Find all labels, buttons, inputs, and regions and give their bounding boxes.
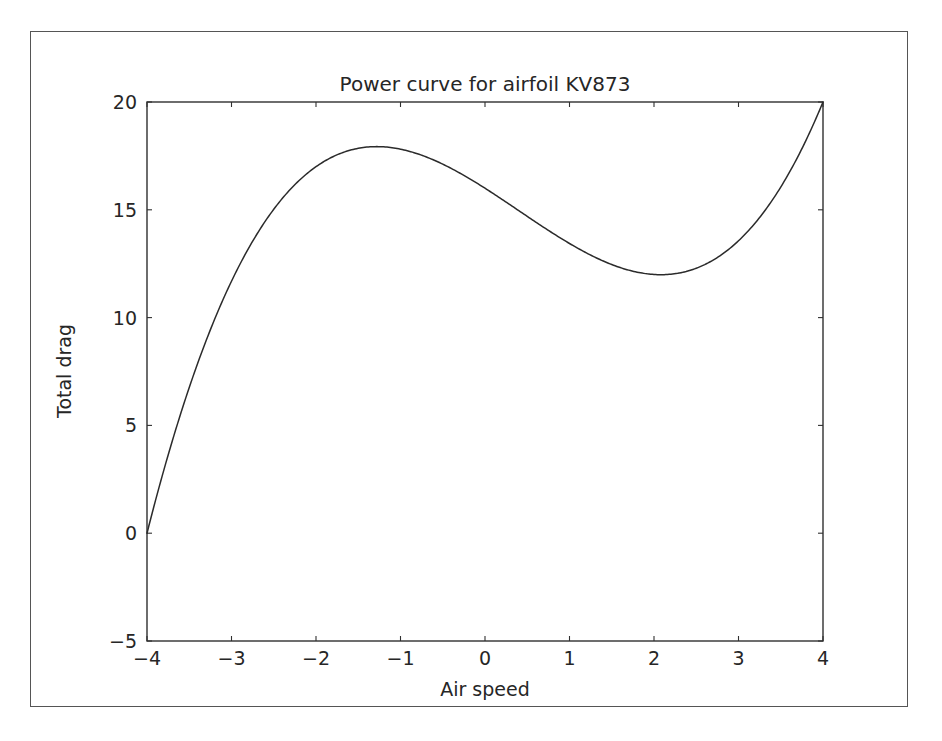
plot-area: −4−3−2−101234 −505101520 Power curve for…: [31, 32, 909, 708]
x-axis-tick-labels: −4−3−2−101234: [133, 647, 829, 669]
y-tick-label: 15: [113, 199, 137, 221]
x-tick-label: −3: [217, 647, 245, 669]
x-tick-label: 2: [648, 647, 660, 669]
y-axis-tick-labels: −505101520: [109, 91, 137, 652]
y-axis-label: Total drag: [53, 324, 75, 419]
x-tick-label: 1: [563, 647, 575, 669]
plot-background: [147, 102, 823, 641]
x-tick-label: 3: [732, 647, 744, 669]
x-tick-label: 4: [817, 647, 829, 669]
figure-frame: −4−3−2−101234 −505101520 Power curve for…: [30, 31, 908, 707]
x-tick-label: 0: [479, 647, 491, 669]
power-curve-chart: −4−3−2−101234 −505101520 Power curve for…: [31, 32, 909, 708]
y-tick-label: 5: [125, 414, 137, 436]
x-tick-label: −4: [133, 647, 161, 669]
y-tick-label: 0: [125, 522, 137, 544]
x-tick-label: −2: [302, 647, 330, 669]
chart-title: Power curve for airfoil KV873: [340, 72, 631, 96]
y-tick-label: −5: [109, 630, 137, 652]
x-tick-label: −1: [386, 647, 414, 669]
y-tick-label: 20: [113, 91, 137, 113]
x-axis-label: Air speed: [440, 678, 530, 700]
y-tick-label: 10: [113, 307, 137, 329]
